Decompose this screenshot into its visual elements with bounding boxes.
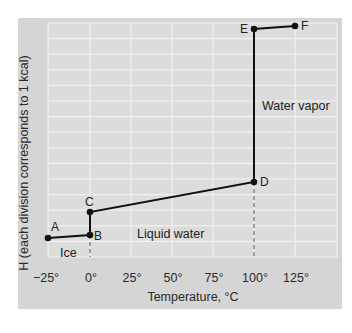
x-tick-100: 100°	[242, 271, 268, 285]
point-label-f: F	[301, 19, 308, 33]
point-label-a: A	[51, 220, 59, 234]
region-label-water-vapor: Water vapor	[262, 99, 330, 113]
x-axis-title: Temperature, °C	[147, 290, 238, 304]
x-tick-0: 0°	[85, 271, 97, 285]
plot-area	[48, 23, 337, 257]
point-f-marker	[292, 23, 299, 30]
point-e-marker	[251, 26, 258, 33]
point-label-e: E	[240, 22, 248, 36]
point-c-marker	[87, 209, 94, 216]
point-b-marker	[87, 232, 94, 239]
x-tick-125: 125°	[283, 271, 309, 285]
point-a-marker	[45, 235, 52, 242]
region-label-ice: Ice	[60, 246, 77, 260]
point-d-marker	[251, 179, 258, 186]
point-label-b: B	[94, 229, 102, 243]
y-axis-title: H (each division corresponds to 1 kcal)	[17, 55, 31, 270]
x-tick-75: 75°	[205, 271, 224, 285]
point-label-d: D	[260, 175, 269, 189]
x-tick-25: 25°	[123, 271, 142, 285]
x-tick-minus-25: −25°	[33, 271, 59, 285]
region-label-liquid-water: Liquid water	[137, 227, 204, 241]
point-label-c: C	[85, 195, 94, 209]
x-tick-50: 50°	[164, 271, 183, 285]
